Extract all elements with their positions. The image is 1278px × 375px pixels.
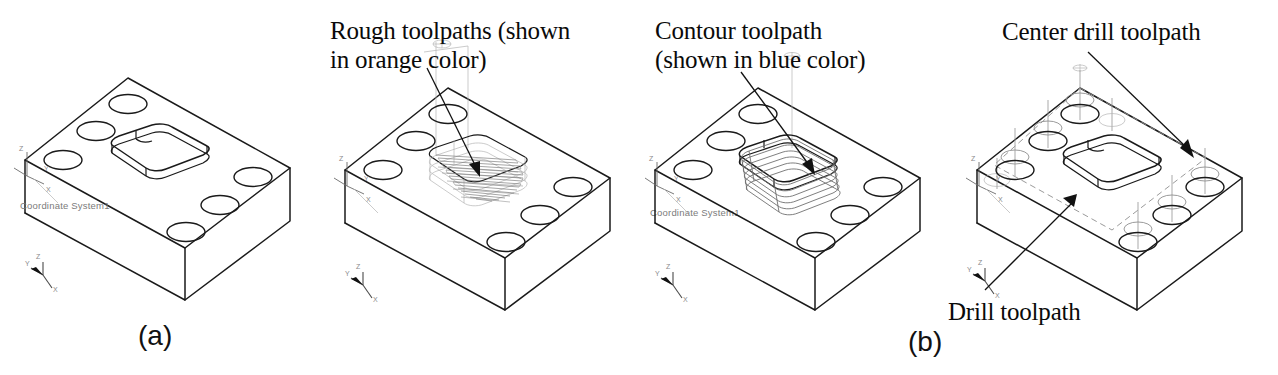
drill-leader-d [985,194,1077,290]
global-axis-triad-a: Z Y X [25,253,58,293]
svg-text:Y: Y [655,270,660,277]
pocket-a [111,124,209,179]
plate-solid-d [977,88,1242,310]
plate-solid-a [25,78,290,300]
rough-toolpath-leader-b [427,68,480,177]
svg-text:Y: Y [996,175,1001,182]
panel-a-drawing: Z Y X Z Y X [0,0,320,375]
global-axis-triad-d: Z Y X [967,259,1000,299]
svg-text:X: X [53,286,58,293]
svg-text:Z: Z [19,145,24,152]
svg-text:Z: Z [666,263,671,270]
svg-text:Z: Z [36,253,41,260]
svg-text:X: X [683,296,688,303]
annotation-drill-toolpath: Drill toolpath [948,297,1188,326]
svg-text:Y: Y [44,165,49,172]
figure-container: Z Y X Z Y X Coordinate System1 (a) [0,0,1278,375]
hole-group-c [674,105,902,252]
svg-text:Z: Z [339,155,344,162]
svg-text:Z: Z [649,155,654,162]
svg-text:Y: Y [364,175,369,182]
svg-text:Z: Z [978,259,983,266]
svg-text:Z: Z [356,263,361,270]
global-axis-triad-c: Z Y X [655,263,688,303]
drill-axes-d [984,64,1219,249]
plate-solid-c [655,88,920,310]
annotation-rough-toolpaths: Rough toolpaths (shown in orange color) [330,16,620,74]
pocket-d [1063,135,1161,190]
svg-text:Y: Y [967,266,972,273]
svg-text:Y: Y [345,270,350,277]
svg-text:Y: Y [25,260,30,267]
annotation-contour-toolpath: Contour toolpath (shown in blue color) [655,16,935,74]
svg-text:Y: Y [674,175,679,182]
contour-toolpath-passes-c [741,139,840,215]
panel-a: Z Y X Z Y X Coordinate System1 (a) [0,0,320,375]
coordinate-system-label-a: Coordinate System1 [20,200,110,211]
svg-text:Z: Z [971,155,976,162]
panel-label-a: (a) [138,320,172,352]
annotation-center-drill-toolpath: Center drill toolpath [1002,17,1278,46]
hole-group-a [44,95,272,242]
svg-text:X: X [373,296,378,303]
global-axis-triad-b: Z Y X [345,263,378,303]
